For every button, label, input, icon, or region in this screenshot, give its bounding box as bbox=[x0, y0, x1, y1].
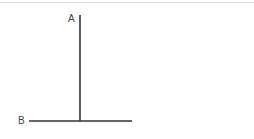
label-a: A bbox=[68, 14, 75, 24]
label-b: B bbox=[18, 116, 25, 126]
t-shape-diagram bbox=[0, 0, 254, 139]
